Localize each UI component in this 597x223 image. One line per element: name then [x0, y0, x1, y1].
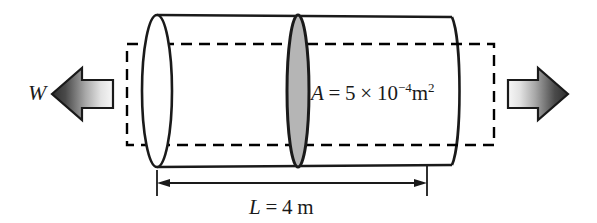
cylinder-top-edge: [157, 15, 452, 17]
figure-canvas: W A = 5 × 10−4m2 L = 4 m: [0, 0, 597, 223]
area-times-sign: ×: [360, 81, 372, 105]
length-value: 4: [282, 195, 293, 219]
cylinder-diagram-svg: [0, 0, 597, 223]
length-unit: m: [297, 195, 313, 219]
cylinder-right-end-arc: [452, 17, 460, 165]
cross-section-ellipse: [287, 15, 309, 167]
load-symbol-label: W: [28, 80, 46, 106]
length-equals: =: [265, 195, 277, 219]
dimension-arrowhead-right: [414, 179, 427, 187]
area-exponent: −4: [398, 80, 412, 95]
area-unit-exponent: 2: [428, 80, 435, 95]
area-equals: =: [329, 81, 341, 105]
area-coefficient: 5: [345, 81, 356, 105]
length-variable: L: [249, 195, 261, 219]
area-variable: A: [311, 81, 324, 105]
area-unit: m: [412, 81, 428, 105]
left-load-arrow: [52, 68, 113, 120]
cross-section-area-label: A = 5 × 10−4m2: [311, 81, 435, 106]
area-base: 10: [377, 81, 398, 105]
cylinder-bottom-edge: [157, 165, 452, 167]
load-symbol-text: W: [28, 80, 46, 105]
length-label: L = 4 m: [249, 195, 314, 220]
length-dimension: [157, 166, 427, 196]
cylinder-left-cap-ellipse: [142, 15, 172, 167]
right-load-arrow: [508, 68, 568, 120]
dimension-arrowhead-left: [157, 179, 170, 187]
